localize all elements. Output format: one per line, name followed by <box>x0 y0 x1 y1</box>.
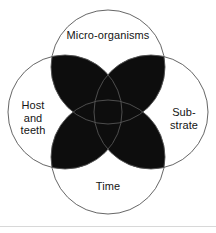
figure-baseline-rule <box>0 226 216 227</box>
venn-label-time: Time <box>68 180 148 193</box>
venn-diagram-figure: Micro-organisms Host and teeth Sub- stra… <box>0 0 216 233</box>
venn-label-substrate: Sub- strate <box>160 106 208 131</box>
venn-label-host-and-teeth: Host and teeth <box>8 99 58 137</box>
venn-label-micro-organisms: Micro-organisms <box>38 29 178 42</box>
